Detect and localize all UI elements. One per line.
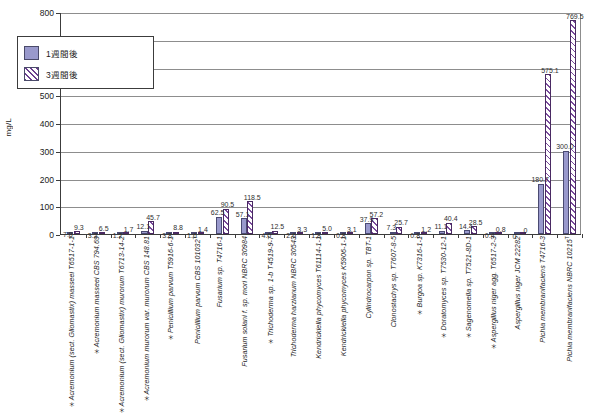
data-label-3week: 3.1 <box>347 226 357 233</box>
legend-item-3week: 3週間後 <box>24 63 147 84</box>
bar-group <box>166 12 179 234</box>
y-tick-label: 500 <box>14 92 54 100</box>
data-label-1week: 11.1 <box>434 223 447 230</box>
x-axis-label: Cylindrocarpon sp. TBT-1 <box>366 236 374 319</box>
legend-label-1week: 1週間後 <box>46 47 78 59</box>
y-tick-mark <box>56 207 60 208</box>
data-label-1week: 300.0 <box>556 143 574 150</box>
bar-3week <box>545 74 551 234</box>
bar-3week <box>74 231 80 234</box>
data-label-1week: 57.1 <box>236 211 250 218</box>
legend-swatch-3week <box>24 67 39 81</box>
bar-group <box>514 12 527 234</box>
y-tick-label: 0 <box>14 231 54 239</box>
y-tick-mark <box>56 152 60 153</box>
data-label-3week: 6.5 <box>99 225 109 232</box>
data-label-1week: 180.7 <box>531 176 549 183</box>
data-label-3week: 8.8 <box>173 224 183 231</box>
y-tick-label: 300 <box>14 148 54 156</box>
bar-group <box>340 12 353 234</box>
x-axis-label: ＊ Burgoa sp. K7316-1-1 <box>416 236 425 316</box>
data-label-3week: 769.5 <box>566 13 584 20</box>
bar-1week <box>439 231 445 234</box>
x-axis-label: ＊ Penicillium parvum T5916-6-1 <box>167 236 176 341</box>
x-axis-label: Clonostachys sp. T7607-8-5 <box>391 236 399 327</box>
bar-group <box>538 12 551 234</box>
legend: 1週間後 3週間後 <box>17 36 154 89</box>
bar-1week <box>390 232 396 234</box>
legend-swatch-1week <box>24 46 39 60</box>
bar-3week <box>396 227 402 234</box>
y-tick-label: 200 <box>14 176 54 184</box>
bar-group <box>414 12 427 234</box>
x-axis-label: ＊ Acremonium (sect. Gliomastix) masseei … <box>68 236 77 408</box>
bar-1week <box>216 217 222 234</box>
data-label-3week: 45.7 <box>146 214 160 221</box>
bar-group <box>439 12 452 234</box>
data-label-3week: 40.4 <box>444 215 458 222</box>
data-label-3week: 0.8 <box>496 226 506 233</box>
bar-group <box>489 12 502 234</box>
data-label-3week: 1.4 <box>198 226 208 233</box>
x-axis-label: Kendrickiella phycomyces K5906-1-1 <box>341 236 349 356</box>
y-tick-mark <box>56 180 60 181</box>
x-axis-label: Fusarium sp. T4716-1 <box>217 236 225 307</box>
bar-group <box>290 12 303 234</box>
x-axis-label: ＊ Acremonium masseei CBS 794.69 <box>93 236 102 355</box>
bar-1week <box>241 218 247 234</box>
bar-group <box>464 12 477 234</box>
x-axis-label: ＊ Doratomyces sp. T7530-12-1 <box>440 236 449 339</box>
bar-group <box>191 12 204 234</box>
data-label-3week: 90.5 <box>221 201 235 208</box>
data-label-3week: 28.5 <box>469 219 483 226</box>
x-axis-category-labels: ＊ Acremonium (sect. Gliomastix) masseei … <box>60 236 581 382</box>
bar-group <box>563 12 576 234</box>
y-tick-label: 800 <box>14 9 54 17</box>
x-axis-label: ＊ Aspergillus niger agg. T6517-2-3 <box>490 236 499 350</box>
bar-1week <box>538 184 544 234</box>
bar-1week <box>563 151 569 234</box>
x-axis-label: ＊ Acremonium murorum var. murorum CBS 14… <box>143 236 152 402</box>
y-tick-label: 100 <box>14 203 54 211</box>
x-axis-label: ＊ Trichoderma sp. 1-b T4519-9-7 <box>267 236 276 345</box>
x-axis-label: Aspergillus niger JCM 22282 <box>515 236 523 329</box>
bar-group <box>241 12 254 234</box>
y-tick-label: 400 <box>14 120 54 128</box>
x-axis-label: ＊ Acremonium (sect. Gliomastix) murorum … <box>118 236 127 414</box>
bar-3week <box>272 231 278 234</box>
data-label-3week: 1.7 <box>124 226 134 233</box>
bar-group <box>265 12 278 234</box>
data-label-3week: 575.1 <box>541 67 559 74</box>
data-label-3week: 0 <box>524 227 528 234</box>
bar-1week <box>141 231 147 234</box>
data-label-1week: 62.5 <box>211 209 225 216</box>
x-axis-label: Trichoderma harzianum NBRC 30543 <box>291 236 299 357</box>
legend-label-3week: 3週間後 <box>46 68 78 80</box>
x-tick-mark <box>582 234 583 238</box>
data-label-1week: 12.1 <box>136 223 150 230</box>
y-tick-mark <box>56 96 60 97</box>
bar-3week <box>173 232 179 234</box>
x-axis-label: Pichia membranifaciens T4716-3 <box>540 236 548 343</box>
bar-3week <box>99 232 105 234</box>
bar-1week <box>365 223 371 234</box>
bar-3week <box>322 232 328 234</box>
data-label-3week: 1.2 <box>421 226 431 233</box>
bar-3week <box>570 20 576 234</box>
bar-group <box>315 12 328 234</box>
data-label-3week: 57.2 <box>370 211 384 218</box>
legend-item-1week: 1週間後 <box>24 42 147 63</box>
bar-group <box>390 12 403 234</box>
data-label-3week: 12.5 <box>271 223 285 230</box>
data-label-3week: 118.5 <box>244 194 261 201</box>
y-tick-mark <box>56 124 60 125</box>
x-axis-label: Fusarium solani f. sp. mori NBRC 30984 <box>242 236 250 367</box>
y-tick-mark <box>56 13 60 14</box>
x-axis-label: Penicillium parvum CBS 101032T <box>192 236 203 344</box>
data-label-3week: 5.0 <box>322 225 332 232</box>
bar-1week <box>464 230 470 234</box>
data-label-3week: 3.3 <box>297 226 307 233</box>
bar-group <box>365 12 378 234</box>
x-axis-label: ＊ Sagenomella sp. T7521-8D-1 <box>465 236 474 339</box>
